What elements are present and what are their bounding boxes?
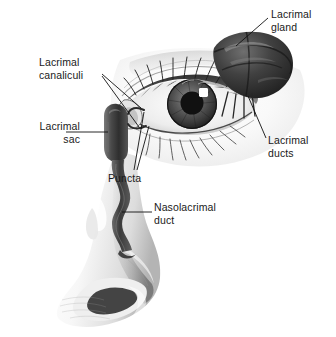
corneal-highlight xyxy=(199,88,208,97)
label-lacrimal-ducts: Lacrimal ducts xyxy=(268,134,308,159)
anatomy-illustration xyxy=(0,0,336,337)
label-lacrimal-sac: Lacrimal sac xyxy=(12,120,80,145)
lacrimal-sac xyxy=(104,104,128,162)
label-lacrimal-gland: Lacrimal gland xyxy=(271,8,311,33)
lacrimal-apparatus-figure: Lacrimal gland Lacrimal canaliculi Lacri… xyxy=(0,0,336,337)
label-nasolacrimal-duct: Nasolacrimal duct xyxy=(154,201,216,226)
label-puncta: Puncta xyxy=(108,172,141,185)
label-lacrimal-canaliculi: Lacrimal canaliculi xyxy=(39,56,83,81)
